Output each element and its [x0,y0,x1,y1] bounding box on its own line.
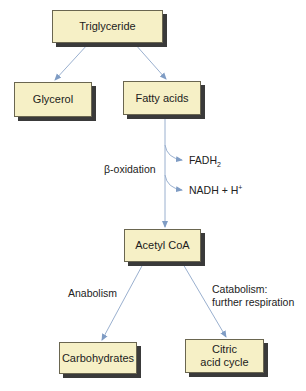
label-catabolism: Catabolism: further respiration [212,283,294,309]
node-carbohydrates-label: Carbohydrates [62,352,134,365]
node-acetyl-coa-label: Acetyl CoA [135,239,189,252]
label-catabolism-line1: Catabolism: [212,283,294,296]
label-beta-oxidation: β-oxidation [104,163,156,176]
label-fadh2-sub: 2 [217,161,221,168]
label-catabolism-line2: further respiration [212,296,294,309]
label-nadh-sup: + [238,184,242,191]
node-citric-acid-cycle: Citric acid cycle [185,339,264,373]
node-acetyl-coa: Acetyl CoA [124,229,201,262]
label-fadh2: FADH2 [189,154,221,167]
label-anabolism: Anabolism [68,287,117,300]
node-triglyceride: Triglyceride [52,10,163,43]
arrows-layer [0,0,306,391]
node-carbohydrates: Carbohydrates [59,342,137,374]
arrow-nadh [165,175,182,190]
arrow-triglyceride-fatty-acids [135,44,166,79]
node-citric-line2: acid cycle [200,356,248,369]
label-fadh2-main: FADH [189,154,217,166]
arrow-fadh2 [165,145,182,160]
label-nadh-main: NADH + H [189,184,238,196]
label-nadh: NADH + H+ [189,184,242,197]
node-fatty-acids-label: Fatty acids [135,92,188,105]
node-triglyceride-label: Triglyceride [79,20,135,33]
node-fatty-acids: Fatty acids [123,81,201,115]
node-citric-line1: Citric [212,343,237,356]
arrow-triglyceride-glycerol [55,44,88,80]
node-glycerol: Glycerol [14,82,92,117]
node-glycerol-label: Glycerol [33,93,73,106]
arrow-acetyl-carbohydrates [102,264,143,340]
